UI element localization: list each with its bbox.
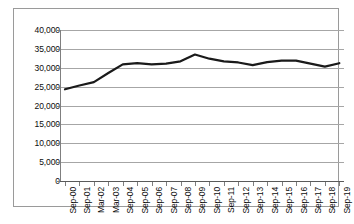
chart-frame: 40,00035,00030,00025,00020,00015,00010,0…	[13, 8, 339, 207]
y-axis-tick-label: 5,000	[16, 158, 60, 167]
y-axis-tick-label: 10,000	[16, 139, 60, 148]
y-axis-tick-label: 35,000	[16, 45, 60, 54]
x-axis-tick	[253, 182, 254, 186]
x-axis-tick	[166, 182, 167, 186]
x-axis-tick	[282, 182, 283, 186]
x-axis-tick-label: Sep-08	[184, 187, 193, 214]
x-axis-tick-label: Sep-16	[300, 187, 309, 214]
y-axis-labels: 40,00035,00030,00025,00020,00015,00010,0…	[14, 9, 60, 208]
x-axis-tick	[296, 182, 297, 186]
x-axis-tick	[238, 182, 239, 186]
x-axis-tick	[94, 182, 95, 186]
x-axis-tick	[108, 182, 109, 186]
x-axis-tick-label: Sep-18	[328, 187, 337, 214]
y-axis-tick-label: 30,000	[16, 64, 60, 73]
x-axis-tick-label: Sep-06	[155, 187, 164, 214]
x-axis-tick-label: Sep-19	[343, 187, 352, 214]
x-axis-tick-label: Sep-17	[314, 187, 323, 214]
y-axis-tick-label: 0	[16, 177, 60, 186]
x-axis-tick-label: Sep-13	[256, 187, 265, 214]
x-axis-tick	[339, 182, 340, 186]
x-axis-line	[60, 181, 344, 182]
x-axis-tick	[310, 182, 311, 186]
x-axis-tick-label: Sep-04	[126, 187, 135, 214]
x-axis-tick-label: Sep-15	[285, 187, 294, 214]
x-axis-tick-label: Sep-12	[242, 187, 251, 214]
x-axis-tick-label: Sep-11	[227, 187, 236, 213]
y-axis-tick-label: 25,000	[16, 82, 60, 91]
x-axis-tick-label: Mar-03	[112, 187, 121, 213]
x-axis-tick-label: Sep-10	[213, 187, 222, 214]
x-axis-tick	[325, 182, 326, 186]
x-axis-tick-label: Sep-05	[141, 187, 150, 214]
y-axis-tick-label: 20,000	[16, 101, 60, 110]
x-axis-tick	[152, 182, 153, 186]
y-axis-tick-label: 40,000	[16, 26, 60, 35]
x-axis-tick	[137, 182, 138, 186]
x-axis-tick	[65, 182, 66, 186]
x-axis-tick-label: Sep-09	[198, 187, 207, 214]
x-axis-tick	[224, 182, 225, 186]
x-axis-tick-label: Sep-00	[69, 187, 78, 214]
x-axis-tick	[267, 182, 268, 186]
x-axis-tick	[79, 182, 80, 186]
x-axis-tick	[195, 182, 196, 186]
x-axis-tick	[123, 182, 124, 186]
x-axis-tick-label: Sep-01	[83, 187, 92, 214]
plot-area	[61, 30, 344, 181]
x-axis-tick	[209, 182, 210, 186]
data-series-line	[61, 30, 344, 181]
x-axis-tick-label: Mar-02	[97, 187, 106, 213]
y-axis-tick-label: 15,000	[16, 120, 60, 129]
x-axis-tick	[181, 182, 182, 186]
x-axis-tick-label: Sep-07	[170, 187, 179, 214]
x-axis-tick-label: Sep-14	[271, 187, 280, 214]
